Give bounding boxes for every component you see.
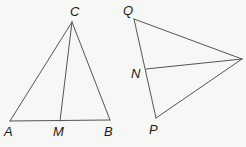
label-c: C	[70, 4, 80, 19]
side-rp	[156, 59, 242, 118]
segment-cm	[60, 22, 72, 121]
triangle-qrp: Q N P	[123, 3, 242, 137]
label-b: B	[104, 124, 113, 139]
label-p: P	[149, 122, 158, 137]
side-bc	[72, 22, 110, 120]
segment-nr	[146, 59, 242, 69]
label-m: M	[53, 124, 64, 139]
geometry-diagram: C A M B Q N P	[0, 0, 246, 147]
triangle-abc: C A M B	[3, 4, 113, 139]
side-ca	[10, 22, 72, 121]
side-qr	[134, 19, 242, 59]
label-q: Q	[123, 3, 133, 18]
label-n: N	[131, 66, 141, 81]
label-a: A	[3, 124, 13, 139]
